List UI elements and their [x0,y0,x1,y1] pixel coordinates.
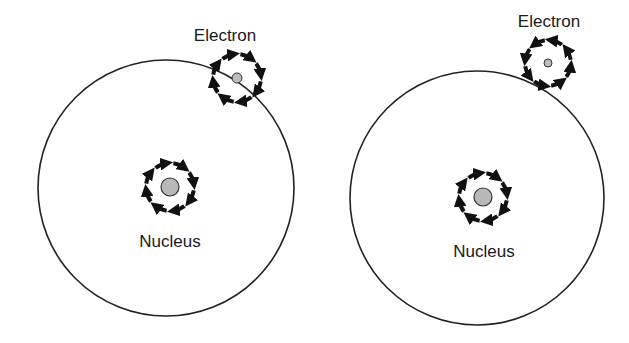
left-electron-label: Electron [194,26,256,45]
left-electron [232,73,242,83]
atom-spin-diagram: Nucleus Electron Nucleus Electron [0,0,629,343]
right-nucleus [474,188,492,206]
left-nucleus-label: Nucleus [139,232,200,251]
right-atom-panel: Nucleus Electron [350,12,604,325]
left-atom-panel: Nucleus Electron [38,26,294,316]
right-nucleus-label: Nucleus [453,242,514,261]
left-nucleus [161,178,179,196]
right-electron-label: Electron [518,12,580,31]
right-electron [544,59,552,67]
